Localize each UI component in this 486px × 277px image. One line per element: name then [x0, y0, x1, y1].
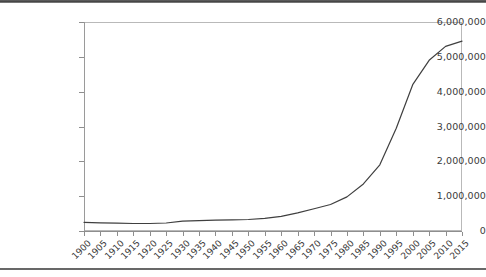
x-tick-mark [166, 232, 167, 236]
y-axis-line [84, 22, 85, 231]
x-tick-mark [462, 232, 463, 236]
y-tick-mark [79, 22, 84, 23]
y-tick-label: 3,000,000 [412, 121, 486, 132]
y-tick-label: 2,000,000 [412, 155, 486, 166]
x-tick-mark [199, 232, 200, 236]
y-tick-label: 6,000,000 [412, 16, 486, 27]
x-tick-mark [215, 232, 216, 236]
chart-page: 01,000,0002,000,0003,000,0004,000,0005,0… [0, 0, 486, 277]
y-tick-label: 1,000,000 [412, 190, 486, 201]
x-tick-mark [331, 232, 332, 236]
x-tick-mark [446, 232, 447, 236]
x-tick-mark [133, 232, 134, 236]
x-tick-mark [150, 232, 151, 236]
x-tick-mark [248, 232, 249, 236]
x-tick-mark [265, 232, 266, 236]
x-tick-mark [429, 232, 430, 236]
x-tick-mark [347, 232, 348, 236]
x-tick-mark [413, 232, 414, 236]
x-tick-mark [281, 232, 282, 236]
x-tick-mark [232, 232, 233, 236]
x-tick-mark [298, 232, 299, 236]
y-tick-mark [79, 92, 84, 93]
y-tick-mark [79, 57, 84, 58]
x-tick-mark [314, 232, 315, 236]
x-tick-mark [183, 232, 184, 236]
x-tick-mark [84, 232, 85, 236]
x-tick-mark [363, 232, 364, 236]
x-tick-mark [396, 232, 397, 236]
x-axis-line [84, 231, 462, 232]
x-tick-mark [117, 232, 118, 236]
y-tick-mark [79, 127, 84, 128]
y-tick-label: 4,000,000 [412, 86, 486, 97]
y-tick-label: 0 [412, 225, 486, 236]
x-tick-mark [380, 232, 381, 236]
y-tick-label: 5,000,000 [412, 51, 486, 62]
x-tick-mark [100, 232, 101, 236]
plot-area-frame [84, 22, 462, 231]
y-tick-mark [79, 196, 84, 197]
line-chart: 01,000,0002,000,0003,000,0004,000,0005,0… [0, 0, 486, 277]
y-tick-mark [79, 161, 84, 162]
